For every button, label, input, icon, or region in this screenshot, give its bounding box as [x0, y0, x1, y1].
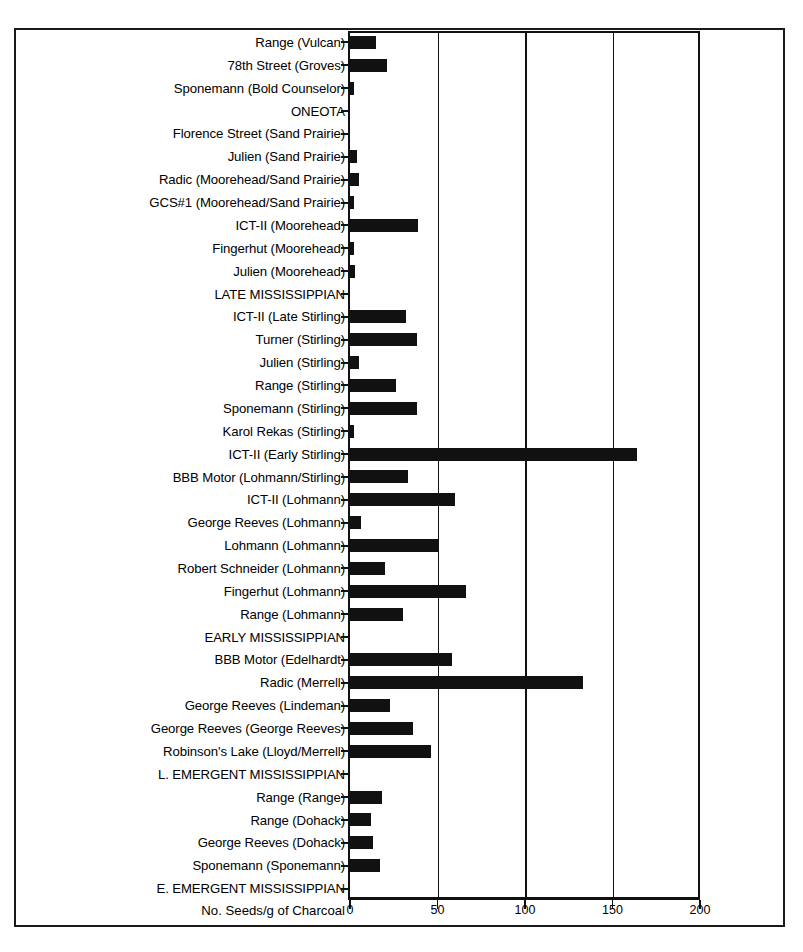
category-label: Sponemann (Stirling) [15, 397, 345, 421]
bar-row: Radic (Merrell) [0, 671, 803, 695]
y-axis-tick [341, 842, 348, 844]
bar-row: Karol Rekas (Stirling) [0, 420, 803, 444]
y-axis-tick [341, 636, 348, 638]
y-axis-tick [341, 339, 348, 341]
category-label: EARLY MISSISSIPPIAN [15, 626, 345, 650]
bar [350, 82, 354, 95]
category-label: GCS#1 (Moorehead/Sand Prairie) [15, 191, 345, 215]
category-label: Range (Range) [15, 786, 345, 810]
bar [350, 791, 382, 804]
y-axis-tick [341, 202, 348, 204]
bar-row: BBB Motor (Edelhardt) [0, 648, 803, 672]
category-label: Julien (Stirling) [15, 351, 345, 375]
y-axis-tick [341, 522, 348, 524]
y-axis-tick [341, 430, 348, 432]
x-tick-label-50: 50 [418, 903, 458, 917]
bar-row: Julien (Moorehead) [0, 260, 803, 284]
category-label: Turner (Stirling) [15, 328, 345, 352]
y-axis-tick [341, 179, 348, 181]
category-label: Radic (Moorehead/Sand Prairie) [15, 168, 345, 192]
bar-row: Sponemann (Sponemann) [0, 854, 803, 878]
x-tick-label-100: 100 [505, 903, 545, 917]
bar-row: BBB Motor (Lohmann/Stirling) [0, 466, 803, 490]
category-label: ICT-II (Early Stirling) [15, 443, 345, 467]
y-axis-tick [341, 590, 348, 592]
x-tick-label-200: 200 [680, 903, 720, 917]
bar-row: Fingerhut (Lohmann) [0, 580, 803, 604]
bar-row: Julien (Sand Prairie) [0, 145, 803, 169]
bar-row: Range (Dohack) [0, 809, 803, 833]
category-label: Robinson's Lake (Lloyd/Merrell) [15, 740, 345, 764]
y-axis-tick [341, 110, 348, 112]
bar [350, 585, 466, 598]
bar [350, 745, 431, 758]
bar-row: Turner (Stirling) [0, 328, 803, 352]
bar [350, 310, 406, 323]
bar [350, 562, 385, 575]
category-label: Range (Stirling) [15, 374, 345, 398]
bar-row: E. EMERGENT MISSISSIPPIAN [0, 877, 803, 901]
bar [350, 59, 387, 72]
bar [350, 150, 357, 163]
bar-row: George Reeves (George Reeves) [0, 717, 803, 741]
category-label: George Reeves (Dohack) [15, 831, 345, 855]
y-axis-tick [341, 865, 348, 867]
bar [350, 676, 583, 689]
bar-row: Range (Range) [0, 786, 803, 810]
bar [350, 36, 376, 49]
bar-row: Julien (Stirling) [0, 351, 803, 375]
category-label: George Reeves (Lohmann) [15, 511, 345, 535]
y-axis-tick [341, 476, 348, 478]
bar-row: GCS#1 (Moorehead/Sand Prairie) [0, 191, 803, 215]
y-axis-tick [341, 888, 348, 890]
bar-row: George Reeves (Dohack) [0, 831, 803, 855]
y-axis-tick [341, 499, 348, 501]
figure-container: Range (Vulcan)78th Street (Groves)Sponem… [0, 0, 803, 952]
bar [350, 608, 403, 621]
category-label: Robert Schneider (Lohmann) [15, 557, 345, 581]
category-label: LATE MISSISSIPPIAN [15, 283, 345, 307]
category-label: Julien (Sand Prairie) [15, 145, 345, 169]
bar [350, 516, 361, 529]
bar [350, 196, 354, 209]
bar [350, 653, 452, 666]
y-axis-tick [341, 362, 348, 364]
bar [350, 448, 637, 461]
category-label: Sponemann (Sponemann) [15, 854, 345, 878]
bar-row: ICT-II (Late Stirling) [0, 305, 803, 329]
category-label: Range (Lohmann) [15, 603, 345, 627]
bar [350, 859, 380, 872]
category-label: George Reeves (Lindeman) [15, 694, 345, 718]
y-axis-tick [341, 453, 348, 455]
bar-row: Robinson's Lake (Lloyd/Merrell) [0, 740, 803, 764]
y-axis-tick [341, 87, 348, 89]
bar [350, 379, 396, 392]
bar [350, 722, 413, 735]
category-label: BBB Motor (Lohmann/Stirling) [15, 466, 345, 490]
bar-row: Range (Vulcan) [0, 31, 803, 55]
bar [350, 242, 354, 255]
bar-row: Robert Schneider (Lohmann) [0, 557, 803, 581]
category-label: Lohmann (Lohmann) [15, 534, 345, 558]
bar-row: ICT-II (Moorehead) [0, 214, 803, 238]
y-axis-tick [341, 613, 348, 615]
bar [350, 219, 418, 232]
bar [350, 493, 455, 506]
bar-row: LATE MISSISSIPPIAN [0, 283, 803, 307]
category-label: L. EMERGENT MISSISSIPPIAN [15, 763, 345, 787]
category-label: ICT-II (Lohmann) [15, 488, 345, 512]
category-label: Radic (Merrell) [15, 671, 345, 695]
bar-row: George Reeves (Lohmann) [0, 511, 803, 535]
y-axis-tick [341, 819, 348, 821]
y-axis-tick [341, 705, 348, 707]
y-axis-tick [341, 224, 348, 226]
bar-row: Range (Lohmann) [0, 603, 803, 627]
x-axis-label: No. Seeds/g of Charcoal [15, 901, 345, 921]
bar-row: Florence Street (Sand Prairie) [0, 122, 803, 146]
y-axis-tick [341, 773, 348, 775]
y-axis-tick [341, 567, 348, 569]
category-label: Range (Vulcan) [15, 31, 345, 55]
bar [350, 813, 371, 826]
category-label: Sponemann (Bold Counselor) [15, 77, 345, 101]
bar-row: Lohmann (Lohmann) [0, 534, 803, 558]
